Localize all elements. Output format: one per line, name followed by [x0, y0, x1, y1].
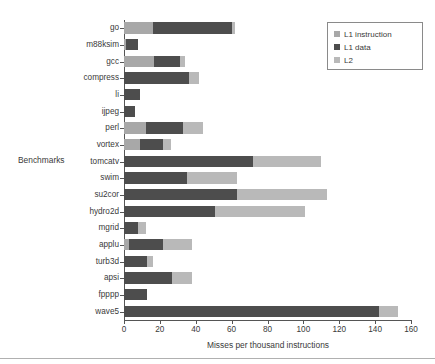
x-axis-tick	[196, 320, 197, 324]
bar-row	[124, 153, 411, 170]
x-axis-tick	[339, 320, 340, 324]
y-axis-tick-label: li	[40, 90, 119, 99]
y-axis-tick-label: turb3d	[40, 257, 119, 266]
bar-segment	[237, 189, 327, 201]
y-axis-tick	[120, 112, 124, 113]
stacked-bar	[124, 222, 146, 234]
x-axis-tick-label: 120	[324, 325, 354, 334]
stacked-bar	[124, 122, 203, 134]
y-axis-tick-label: go	[40, 23, 119, 32]
bar-segment	[180, 56, 185, 68]
y-axis-tick	[120, 28, 124, 29]
legend-item: L1 data	[334, 41, 422, 53]
legend: L1 instruction L1 data L2	[327, 22, 423, 70]
bar-row	[124, 137, 411, 154]
page-divider	[0, 358, 435, 359]
stacked-bar	[124, 39, 138, 51]
bar-segment	[124, 139, 140, 151]
x-axis-tick-label: 160	[396, 325, 426, 334]
y-axis-tick-label: applu	[40, 240, 119, 249]
y-axis-tick	[120, 228, 124, 229]
y-axis-tick-label: vortex	[40, 140, 119, 149]
bar-segment	[124, 106, 135, 118]
stacked-bar	[124, 22, 235, 34]
bar-row	[124, 70, 411, 87]
bar-segment	[154, 56, 179, 68]
y-axis-tick	[120, 145, 124, 146]
bar-row	[124, 237, 411, 254]
stacked-bar	[124, 256, 153, 268]
stacked-bar	[124, 56, 185, 68]
bar-segment	[153, 22, 232, 34]
x-axis-tick	[160, 320, 161, 324]
stacked-bar	[124, 289, 147, 301]
bar-segment	[124, 22, 153, 34]
stacked-bar	[124, 306, 398, 318]
legend-label-l2: L2	[344, 56, 353, 65]
legend-swatch-l1-data	[334, 44, 340, 50]
x-axis-tick	[411, 320, 412, 324]
bar-row	[124, 270, 411, 287]
x-axis-tick	[375, 320, 376, 324]
y-axis-tick-label: perl	[40, 123, 119, 132]
x-axis-tick-label: 80	[253, 325, 283, 334]
bar-segment	[189, 72, 200, 84]
y-axis-tick	[120, 62, 124, 63]
legend-label-l1-instruction: L1 instruction	[344, 30, 392, 39]
y-axis-tick-label: wave5	[40, 307, 119, 316]
stacked-bar	[124, 189, 327, 201]
y-axis-tick	[120, 278, 124, 279]
y-axis-tick	[120, 195, 124, 196]
legend-swatch-l2	[334, 57, 340, 63]
bar-row	[124, 203, 411, 220]
legend-item: L2	[334, 54, 422, 66]
bar-segment	[124, 56, 154, 68]
x-axis-tick-label: 0	[109, 325, 139, 334]
y-axis-tick-label: swim	[40, 173, 119, 182]
bar-row	[124, 220, 411, 237]
bar-segment	[187, 172, 237, 184]
legend-swatch-l1-instruction	[334, 31, 340, 37]
y-axis-tick	[120, 45, 124, 46]
x-axis-tick-label: 20	[145, 325, 175, 334]
bar-segment	[124, 72, 189, 84]
bar-segment	[126, 39, 139, 51]
y-axis-tick-label: fpppp	[40, 290, 119, 299]
stacked-bar	[124, 89, 140, 101]
bar-row	[124, 170, 411, 187]
y-axis-tick	[120, 95, 124, 96]
bar-row	[124, 87, 411, 104]
stacked-bar	[124, 172, 237, 184]
y-axis-tick	[120, 295, 124, 296]
bar-segment	[140, 139, 163, 151]
x-axis-title: Misses per thousand instructions	[124, 340, 412, 350]
bar-segment	[124, 222, 138, 234]
bar-segment	[124, 206, 215, 218]
bar-segment	[124, 189, 237, 201]
bar-segment	[124, 122, 146, 134]
stacked-bar	[124, 72, 199, 84]
y-axis-title: Benchmarks	[18, 155, 65, 165]
y-axis-tick	[120, 128, 124, 129]
bar-row	[124, 287, 411, 304]
legend-item: L1 instruction	[334, 28, 422, 40]
stacked-bar	[124, 272, 192, 284]
bar-segment	[215, 206, 305, 218]
chart-figure: gom88ksimgcccompressliijpegperlvortextom…	[0, 0, 435, 364]
y-axis-tick	[120, 212, 124, 213]
stacked-bar	[124, 239, 192, 251]
x-axis-tick-label: 140	[360, 325, 390, 334]
stacked-bar	[124, 139, 171, 151]
bar-segment	[147, 256, 152, 268]
y-axis-tick-label: ijpeg	[40, 107, 119, 116]
stacked-bar	[124, 106, 135, 118]
x-axis-tick-label: 60	[217, 325, 247, 334]
bar-segment	[138, 222, 145, 234]
x-axis-tick	[232, 320, 233, 324]
bar-segment	[379, 306, 399, 318]
bar-segment	[172, 272, 192, 284]
legend-label-l1-data: L1 data	[344, 43, 371, 52]
bar-segment	[124, 172, 187, 184]
x-axis-tick	[124, 320, 125, 324]
y-axis-tick	[120, 178, 124, 179]
